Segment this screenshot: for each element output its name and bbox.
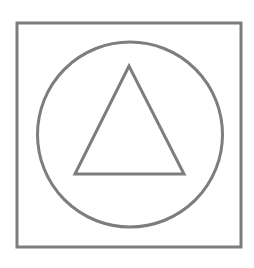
diagram-canvas [0,0,254,268]
inner-triangle [75,66,184,174]
outer-square [17,23,241,247]
